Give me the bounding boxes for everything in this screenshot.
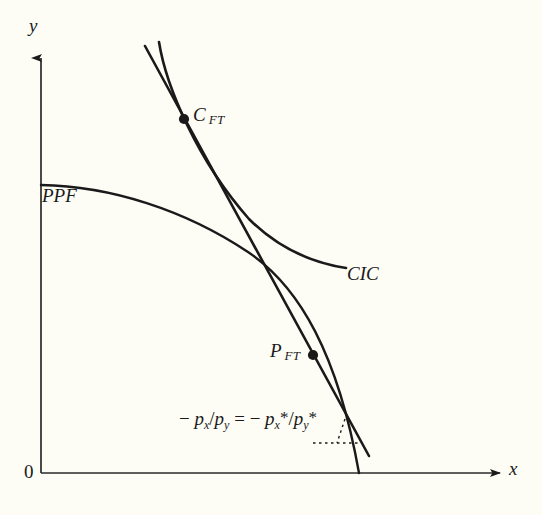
price-y-symbol-1: p	[215, 408, 225, 429]
price-y-subscript-1: y	[224, 418, 229, 432]
equals-sign: =	[234, 408, 245, 429]
point-marker-p-ft	[308, 350, 318, 360]
price-x-symbol-1: p	[194, 408, 204, 429]
diagram-canvas	[0, 0, 542, 515]
consumption-point-label: CFT	[193, 105, 224, 126]
production-point-letter: P	[270, 340, 282, 361]
origin-label: 0	[24, 462, 34, 481]
price-x-symbol-2: p	[265, 408, 275, 429]
point-marker-c-ft	[179, 114, 189, 124]
price-y-symbol-2: p	[294, 408, 304, 429]
y-axis-label: y	[29, 16, 37, 35]
equation-leader-tick	[337, 419, 345, 443]
economics-diagram-figure: y x 0 PPF CIC CFT PFT − px/py = − px*/py…	[0, 0, 542, 515]
ppf-curve-label: PPF	[42, 186, 77, 205]
minus-sign-1: −	[179, 408, 190, 429]
price-ratio-equation: − px/py = − px*/py*	[179, 409, 317, 431]
asterisk-2: *	[309, 408, 318, 427]
consumption-point-letter: C	[193, 104, 206, 125]
cic-curve-label: CIC	[347, 264, 379, 283]
production-point-label: PFT	[270, 341, 300, 362]
consumption-point-subscript: FT	[209, 112, 225, 127]
production-point-subscript: FT	[285, 348, 301, 363]
price-line	[145, 46, 369, 456]
cic-curve	[159, 42, 346, 268]
minus-sign-2: −	[250, 408, 261, 429]
x-axis-label: x	[509, 459, 517, 478]
